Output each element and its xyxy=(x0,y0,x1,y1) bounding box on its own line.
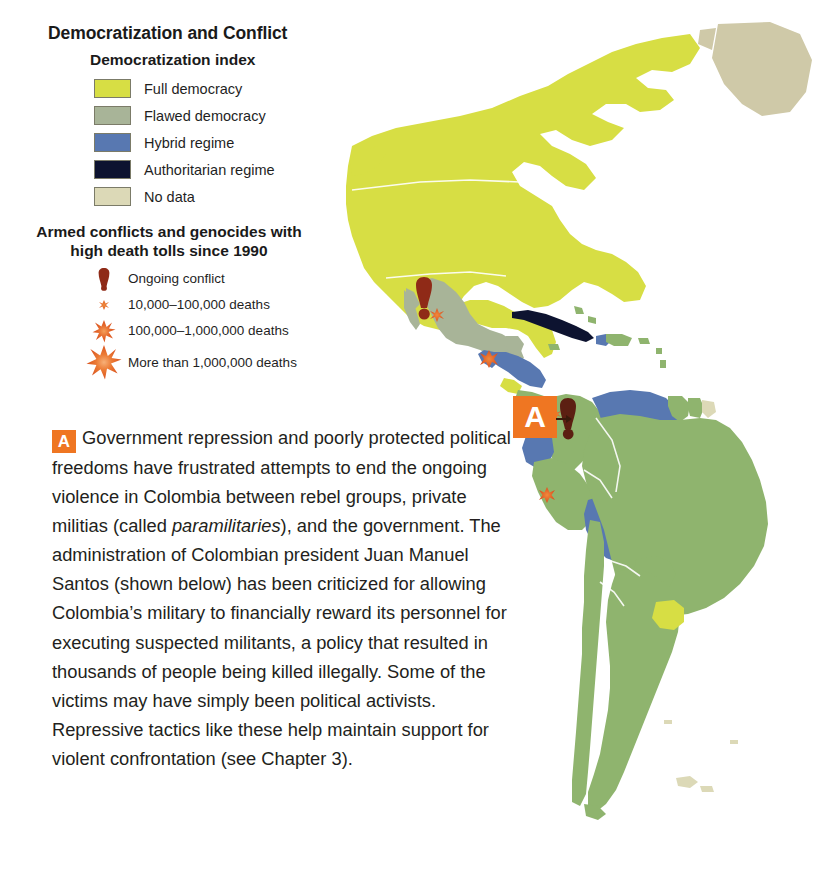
legend-label: No data xyxy=(144,189,195,205)
caption-part2: ), and the government. The administratio… xyxy=(52,515,507,769)
legend-label: Flawed democracy xyxy=(144,108,266,124)
large-burst-icon xyxy=(84,344,124,380)
legend-label: Ongoing conflict xyxy=(128,271,225,286)
legend-label: 100,000–1,000,000 deaths xyxy=(128,323,289,338)
legend-item-100k-1m-deaths: 100,000–1,000,000 deaths xyxy=(84,317,360,344)
legend-conflict-title-line1: Armed conflicts and genocides with xyxy=(8,223,330,242)
map-callout-tag-a: A xyxy=(513,396,557,438)
legend-conflict-title: Armed conflicts and genocides with high … xyxy=(0,223,330,261)
legend-conflict-title-line2: high death tolls since 1990 xyxy=(8,242,330,261)
legend-label: Authoritarian regime xyxy=(144,162,275,178)
medium-burst-icon xyxy=(84,319,124,343)
color-swatch-hybrid-regime xyxy=(94,133,131,152)
color-swatch-authoritarian-regime xyxy=(94,160,131,179)
legend-item-hybrid-regime: Hybrid regime xyxy=(94,129,360,156)
legend-item-10k-100k-deaths: 10,000–100,000 deaths xyxy=(84,292,360,317)
caption-italic-term: paramilitaries xyxy=(172,515,281,536)
map-legend: Democratization and Conflict Democratiza… xyxy=(0,24,360,380)
color-swatch-full-democracy xyxy=(94,79,131,98)
legend-title: Democratization and Conflict xyxy=(0,24,360,43)
figure-page: A Democratization and Conflict Democrati… xyxy=(0,0,819,877)
color-swatch-flawed-democracy xyxy=(94,106,131,125)
legend-item-authoritarian-regime: Authoritarian regime xyxy=(94,156,360,183)
callout-arrow-icon xyxy=(556,412,576,426)
small-burst-icon xyxy=(84,298,124,312)
legend-label: Hybrid regime xyxy=(144,135,234,151)
legend-item-full-democracy: Full democracy xyxy=(94,75,360,102)
democratization-index-items: Full democracy Flawed democracy Hybrid r… xyxy=(0,75,360,210)
legend-label: 10,000–100,000 deaths xyxy=(128,297,270,312)
color-swatch-no-data xyxy=(94,187,131,206)
legend-item-more-than-1m-deaths: More than 1,000,000 deaths xyxy=(84,344,360,380)
exclamation-mark-icon xyxy=(84,267,124,291)
region-jamaica xyxy=(548,344,560,350)
legend-label: Full democracy xyxy=(144,81,242,97)
figure-caption: AGovernment repression and poorly protec… xyxy=(52,423,522,773)
legend-item-flawed-democracy: Flawed democracy xyxy=(94,102,360,129)
legend-item-ongoing-conflict: Ongoing conflict xyxy=(84,265,360,292)
legend-item-no-data: No data xyxy=(94,183,360,210)
legend-index-title: Democratization index xyxy=(0,51,360,68)
conflict-legend-items: Ongoing conflict 10,000–100,000 de xyxy=(0,265,360,380)
caption-tag-a: A xyxy=(52,430,76,453)
legend-label: More than 1,000,000 deaths xyxy=(128,355,297,370)
